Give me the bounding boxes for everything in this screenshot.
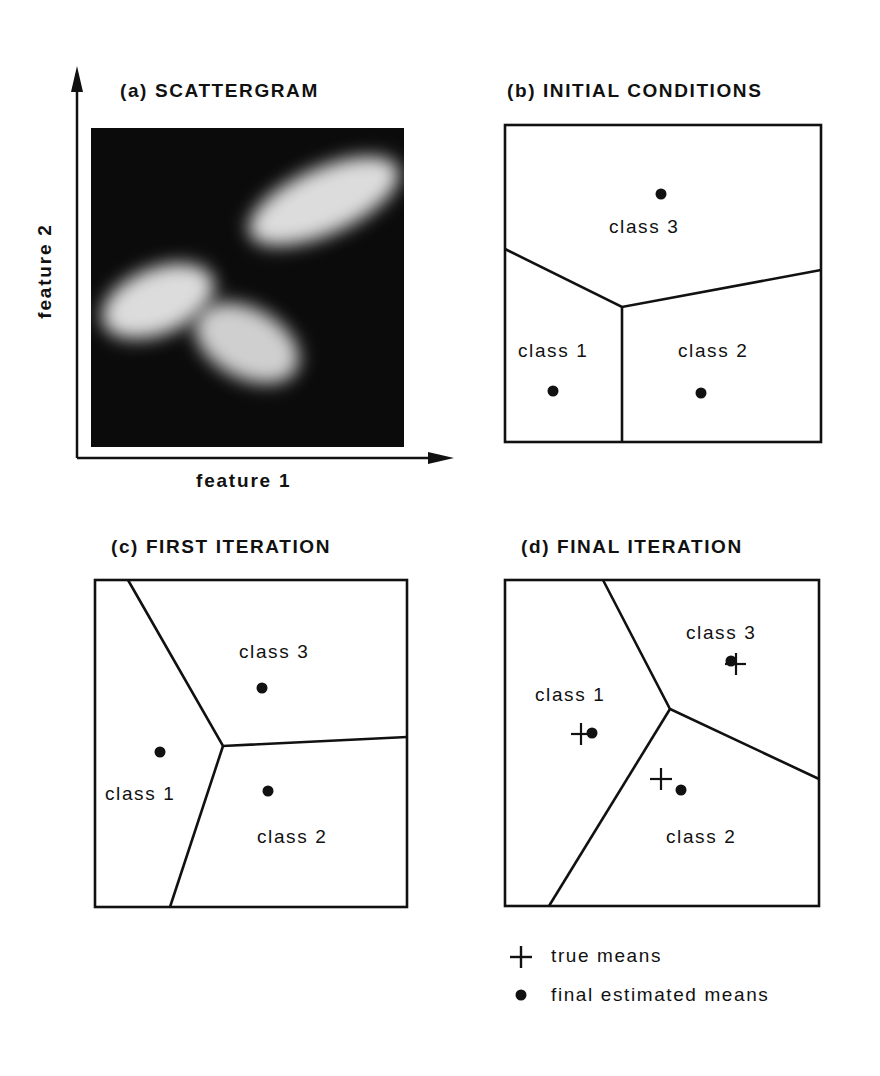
panel-c-class-2: class 2 xyxy=(257,826,327,848)
panel-c-means xyxy=(155,683,274,797)
panel-d-class-3: class 3 xyxy=(686,622,756,644)
panel-c-class-3: class 3 xyxy=(239,641,309,663)
panel-d-class-2: class 2 xyxy=(666,826,736,848)
legend-glyphs xyxy=(510,946,532,1001)
panel-b-class-2: class 2 xyxy=(678,340,748,362)
panel-c-diagram xyxy=(95,580,407,907)
panel-b-class-3: class 3 xyxy=(609,216,679,238)
panel-b-class-1: class 1 xyxy=(518,340,588,362)
axes xyxy=(71,66,454,464)
panel-c-title: (c) FIRST ITERATION xyxy=(111,536,331,558)
panel-d-diagram xyxy=(505,580,819,906)
panel-d-class-1: class 1 xyxy=(535,684,605,706)
legend-true-means: true means xyxy=(551,945,662,967)
legend-estimated-means: final estimated means xyxy=(551,984,769,1006)
panel-b-title: (b) INITIAL CONDITIONS xyxy=(507,80,762,102)
panel-c-class-1: class 1 xyxy=(105,783,175,805)
panel-d-title: (d) FINAL ITERATION xyxy=(521,536,743,558)
k-means-clustering-figure: (a) SCATTERGRAM feature 1 feature 2 xyxy=(0,0,880,1076)
panel-d-true-means xyxy=(571,653,746,790)
